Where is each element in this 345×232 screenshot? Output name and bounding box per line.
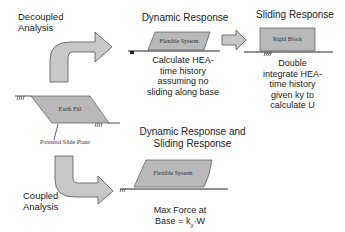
- earth-support-icon-right: [95, 123, 102, 127]
- right-arrow-icon: [222, 30, 246, 50]
- earth-fill-label: Earth Fill: [45, 106, 95, 112]
- formula-suffix: ·W: [193, 216, 205, 226]
- coupled-analysis-label: Coupled Analysis: [23, 190, 58, 212]
- note-line: sliding along base: [133, 87, 233, 98]
- note-line: Calculate HEA-: [133, 55, 233, 66]
- coupled-label-line2: Analysis: [23, 201, 58, 212]
- dynamic-response-title: Dynamic Response: [135, 12, 235, 23]
- note-line: given ky to: [250, 90, 335, 101]
- coupled-title-line1: Dynamic Response and: [125, 126, 260, 138]
- base-support-icon: [130, 51, 134, 54]
- note-line: assuming no: [133, 76, 233, 87]
- dynamic-response-note: Calculate HEA- time history assuming no …: [133, 55, 233, 97]
- note-line: calculate U: [250, 100, 335, 111]
- flexible-system-label: Flexible System: [153, 38, 205, 44]
- note-line: time history: [133, 66, 233, 77]
- sliding-response-title: Sliding Response: [245, 9, 345, 20]
- rigid-block-support-icon: [264, 53, 272, 56]
- coupled-note-line1: Max Force at: [140, 205, 220, 216]
- coupled-note: Max Force at Base = ky·W: [140, 205, 220, 230]
- decoupled-label-line2: Analysis: [18, 22, 63, 33]
- note-line: time history: [250, 79, 335, 90]
- sliding-response-note: Double integrate HEA- time history given…: [250, 58, 335, 111]
- decoupled-arrow-icon: [50, 32, 112, 82]
- note-line: Double: [250, 58, 335, 69]
- decoupled-label-line1: Decoupled: [18, 11, 63, 22]
- coupled-label-line1: Coupled: [23, 190, 58, 201]
- earth-support-icon-left: [17, 96, 24, 100]
- coupled-title-line2: Sliding Response: [125, 138, 260, 150]
- coupled-title: Dynamic Response and Sliding Response: [125, 126, 260, 150]
- formula-prefix: Base = k: [155, 216, 190, 226]
- slide-plane-pointer: [54, 124, 58, 140]
- rigid-block-label: Rigid Block: [260, 36, 315, 42]
- coupled-note-line2: Base = ky·W: [140, 216, 220, 230]
- slide-plane-label: Potential Slide Plane: [30, 139, 100, 145]
- decoupled-analysis-label: Decoupled Analysis: [18, 11, 63, 33]
- note-line: integrate HEA-: [250, 69, 335, 80]
- coupled-flexible-system-label: Flexible System: [143, 170, 203, 176]
- coupled-arrow-icon: [55, 156, 113, 204]
